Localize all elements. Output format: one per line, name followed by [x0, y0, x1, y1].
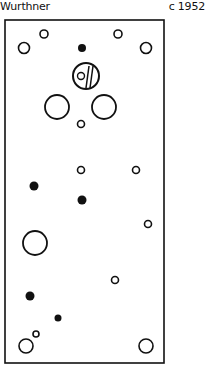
- meter-bar-1: [86, 66, 89, 88]
- bottom-left-tiny-hole-ring-icon: [33, 331, 39, 337]
- center-dot-2-filled-icon: [78, 196, 87, 205]
- panel-diagram: [0, 0, 207, 368]
- lower-left-large-hole-ring-icon: [23, 231, 47, 255]
- lower-center-dot-filled-icon: [55, 315, 62, 322]
- mid-ring-1-ring-icon: [78, 167, 85, 174]
- right-ring-3-ring-icon: [145, 221, 152, 228]
- right-large-hole-ring-icon: [92, 95, 116, 119]
- bottom-left-corner-hole-ring-icon: [19, 339, 33, 353]
- left-dot-1-filled-icon: [30, 182, 39, 191]
- panel-outline: [5, 20, 164, 363]
- top-right-small-hole-ring-icon: [114, 30, 122, 38]
- holes-layer: [19, 30, 154, 353]
- bottom-right-corner-hole-ring-icon: [139, 339, 153, 353]
- meter-inner-ring: [78, 73, 85, 80]
- top-right-corner-hole-ring-icon: [141, 43, 152, 54]
- left-large-hole-ring-icon: [45, 95, 69, 119]
- top-left-corner-hole-ring-icon: [19, 43, 30, 54]
- lower-left-dot-filled-icon: [26, 292, 35, 301]
- mid-ring-2-ring-icon: [133, 167, 140, 174]
- center-small-hole-ring-icon: [78, 121, 85, 128]
- top-center-dot-filled-icon: [78, 44, 86, 52]
- meter-knob-icon: [73, 63, 99, 89]
- meter-bar-2: [90, 66, 93, 88]
- top-left-small-hole-ring-icon: [40, 30, 48, 38]
- lower-ring-4-ring-icon: [112, 277, 119, 284]
